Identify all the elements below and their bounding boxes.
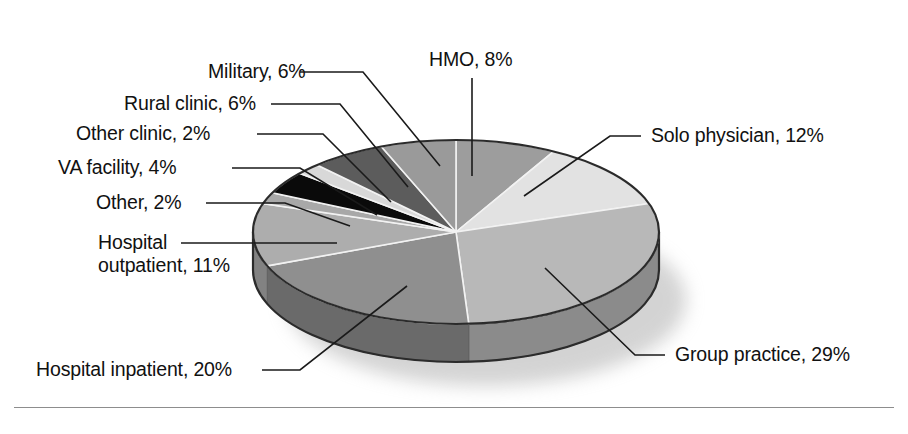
label-va-facility: VA facility, 4%: [58, 156, 176, 179]
label-solo-physician: Solo physician, 12%: [651, 124, 824, 147]
label-hmo: HMO, 8%: [429, 48, 512, 71]
label-rural-clinic: Rural clinic, 6%: [124, 92, 256, 115]
label-other: Other, 2%: [96, 191, 181, 214]
label-other-clinic: Other clinic, 2%: [76, 122, 210, 145]
label-military: Military, 6%: [208, 60, 306, 83]
pie-chart-figure: Military, 6% Rural clinic, 6% Other clin…: [0, 0, 908, 434]
label-hospital-outpatient: Hospital outpatient, 11%: [98, 231, 268, 277]
label-hospital-outpatient-line1: Hospital: [98, 231, 167, 253]
pie-3d-body: [253, 140, 659, 362]
footer-rule: [14, 407, 894, 408]
label-hospital-inpatient: Hospital inpatient, 20%: [36, 358, 232, 381]
label-group-practice: Group practice, 29%: [675, 343, 850, 366]
label-hospital-outpatient-line2: outpatient, 11%: [98, 254, 230, 276]
